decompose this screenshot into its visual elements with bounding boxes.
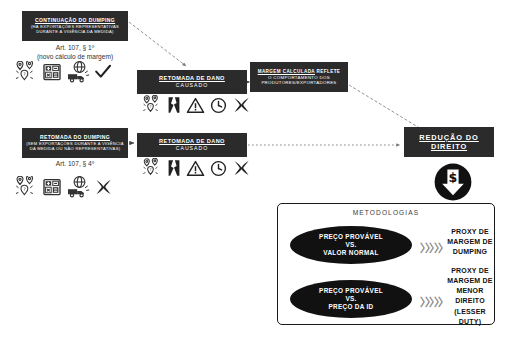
icon-row-dano-top: ? (140, 95, 251, 115)
map-pins-icon: ? (140, 158, 162, 178)
x-mark-icon (232, 159, 251, 177)
box-continuacao-heading: CONTINUAÇÃO DO DUMPING (35, 18, 115, 24)
icon-row-retomada: ? (12, 176, 113, 198)
box-margem-heading-rest: REFLETE (315, 69, 340, 74)
svg-text:?: ? (23, 187, 26, 192)
clock-icon (210, 160, 227, 177)
box-retomada-de-dano-bottom: RETOMADA DE DANO CAUSADO (137, 133, 247, 157)
box-dano-top-subtext: CAUSADO (176, 83, 209, 89)
global-shipping-icon (66, 176, 90, 198)
calculator-icon (42, 62, 62, 82)
box-continuacao-subtext: (HÁ EXPORTAÇÕES REPRESENTATIVAS DURANTE … (26, 25, 124, 34)
box-continuacao-do-dumping: CONTINUAÇÃO DO DUMPING (HÁ EXPORTAÇÕES R… (22, 11, 128, 41)
panel-metodologias-title: METODOLOGIAS (278, 209, 494, 216)
dollar-down-arrow-icon: $ (434, 163, 472, 201)
global-shipping-icon (66, 61, 90, 83)
map-pins-icon: ? (12, 176, 38, 198)
map-pins-icon: ? (12, 61, 38, 83)
box-retomada-do-dumping: RETOMADA DO DUMPING (SEM EXPORTAÇÕES DUR… (22, 128, 128, 158)
box-margem-heading: MARGEM CALCULADA REFLETE (258, 69, 341, 74)
ellipse-preco-provavel-preco-da-id: PREÇO PROVÁVEL VS. PREÇO DA ID (290, 280, 412, 318)
x-mark-icon (94, 178, 113, 196)
broken-chart-icon (167, 159, 181, 177)
box-retomada-heading: RETOMADA DO DUMPING (40, 135, 110, 141)
caption-art-107-paragrafo-4: Art. 107, § 4º (10, 160, 140, 169)
box-retomada-de-dano-top: RETOMADA DE DANO CAUSADO (137, 70, 247, 94)
box-margem-calculada: MARGEM CALCULADA REFLETE O COMPORTAMENTO… (250, 62, 348, 92)
box-dano-bottom-heading: RETOMADA DE DANO (159, 138, 225, 144)
clock-icon (210, 97, 227, 114)
svg-text:?: ? (23, 72, 26, 77)
broken-chart-icon (167, 96, 181, 114)
icon-row-dano-bottom: ? (140, 158, 251, 178)
box-retomada-subtext: (SEM EXPORTAÇÕES DURANTE A VIGÊNCIA DA M… (26, 142, 124, 151)
svg-text:?: ? (149, 167, 151, 172)
warning-triangle-icon (186, 97, 205, 114)
svg-text:?: ? (149, 104, 151, 109)
box-dano-bottom-subtext: CAUSADO (176, 146, 209, 152)
x-mark-icon (232, 96, 251, 114)
ellipse-preco-provavel-valor-normal: PREÇO PROVÁVEL VS. VALOR NORMAL (290, 226, 412, 264)
label-proxy-margem-menor-direito: PROXY DE MARGEM DE MENOR DIREITO (LESSER… (446, 266, 494, 327)
diagram-canvas: CONTINUAÇÃO DO DUMPING (HÁ EXPORTAÇÕES R… (0, 0, 505, 347)
calculator-icon (42, 177, 62, 197)
box-dano-top-heading: RETOMADA DE DANO (159, 75, 225, 81)
panel-metodologias: METODOLOGIAS PREÇO PROVÁVEL VS. VALOR NO… (277, 203, 495, 325)
map-pins-icon: ? (140, 95, 162, 115)
label-proxy-margem-dumping: PROXY DE MARGEM DE DUMPING (446, 227, 494, 257)
check-mark-icon (94, 63, 112, 81)
box-margem-subtext: O COMPORTAMENTO DOS PRODUTORES/EXPORTADO… (254, 75, 344, 85)
box-reducao-do-direito: REDUÇÃO DO DIREITO (404, 127, 494, 157)
box-margem-heading-main: MARGEM CALCULADA (258, 69, 315, 74)
warning-triangle-icon (186, 160, 205, 177)
caption-art-107-paragrafo-1: Art. 107, § 1º (novo cálculo de margem) (10, 44, 140, 62)
icon-row-continuacao: ? (12, 61, 112, 83)
dollar-sign-glyph: $ (449, 170, 458, 185)
box-reducao-heading: REDUÇÃO DO DIREITO (408, 133, 490, 152)
